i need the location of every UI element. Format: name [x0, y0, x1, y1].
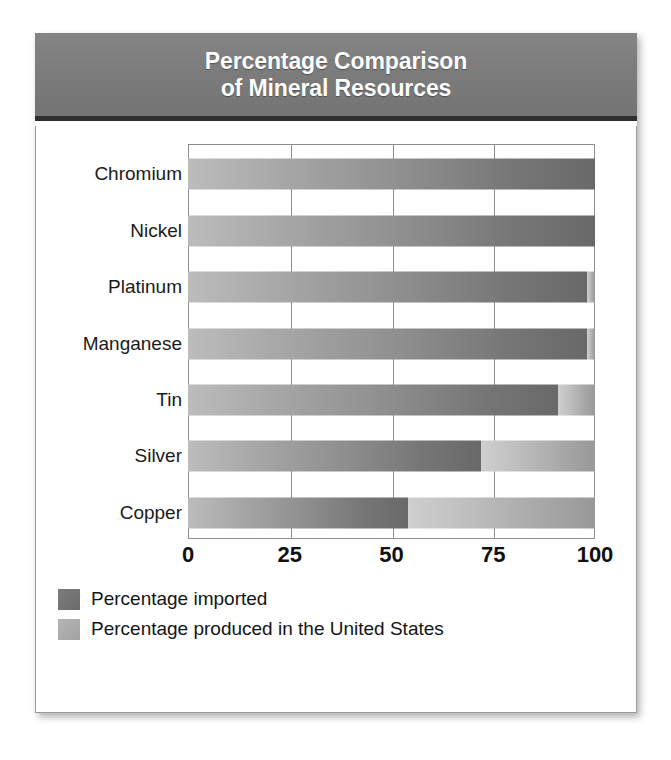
chart-card: Percentage Comparison of Mineral Resourc… — [35, 33, 637, 713]
x-tick-label-50: 50 — [379, 542, 403, 568]
bar-row — [188, 497, 595, 528]
bar-row — [188, 441, 595, 472]
chart-header-banner: Percentage Comparison of Mineral Resourc… — [35, 33, 637, 121]
bar-segment — [188, 384, 558, 415]
x-tick-label-75: 75 — [481, 542, 505, 568]
chart-title-line-2: of Mineral Resources — [205, 75, 467, 102]
bar-segment — [188, 272, 587, 303]
bar-segment — [188, 441, 481, 472]
category-label-chromium: Chromium — [94, 163, 182, 185]
chart-title-line-1: Percentage Comparison — [205, 48, 467, 75]
bar-segment — [188, 215, 595, 246]
bar-row — [188, 272, 595, 303]
bar-segment — [558, 384, 595, 415]
category-label-tin: Tin — [156, 389, 182, 411]
category-label-platinum: Platinum — [108, 276, 182, 298]
plot-area-wrapper — [188, 144, 595, 539]
chart-legend: Percentage importedPercentage produced i… — [58, 584, 618, 644]
bar-segment — [188, 328, 587, 359]
bar-row — [188, 159, 595, 190]
legend-item[interactable]: Percentage imported — [58, 584, 618, 614]
light-gray-swatch — [58, 619, 80, 640]
bar-segment — [587, 272, 595, 303]
legend-item-label: Percentage imported — [91, 588, 267, 610]
category-label-nickel: Nickel — [130, 220, 182, 242]
chart-title: Percentage Comparison of Mineral Resourc… — [205, 48, 467, 101]
bar-row — [188, 384, 595, 415]
bar-segment — [188, 497, 408, 528]
x-tick-label-100: 100 — [577, 542, 614, 568]
bar-segment — [188, 159, 595, 190]
category-label-copper: Copper — [120, 502, 182, 524]
category-axis-labels: ChromiumNickelPlatinumManganeseTinSilver… — [36, 144, 182, 539]
legend-item[interactable]: Percentage produced in the United States — [58, 614, 618, 644]
bar-segment — [587, 328, 595, 359]
category-label-manganese: Manganese — [83, 333, 182, 355]
bar-row — [188, 328, 595, 359]
x-tick-label-25: 25 — [278, 542, 302, 568]
bar-row — [188, 215, 595, 246]
x-tick-label-0: 0 — [182, 542, 194, 568]
bar-segment — [481, 441, 595, 472]
x-axis-tick-labels: 0255075100 — [188, 542, 595, 576]
bar-segment — [408, 497, 595, 528]
legend-item-label: Percentage produced in the United States — [91, 618, 444, 640]
chart-body: ChromiumNickelPlatinumManganeseTinSilver… — [35, 126, 637, 713]
category-label-silver: Silver — [134, 445, 182, 467]
dark-gray-swatch — [58, 589, 80, 610]
